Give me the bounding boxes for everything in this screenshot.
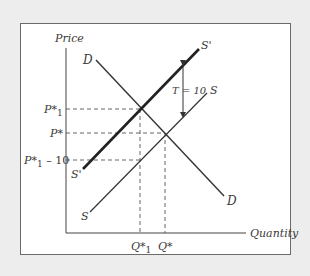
demand-label-top: D <box>82 53 93 67</box>
supply-tax-label-bottom: S' <box>71 168 82 181</box>
quantity-q1-label: Q*1 <box>131 240 151 255</box>
y-axis-label: Price <box>54 32 84 45</box>
quantity-qstar-label: Q* <box>158 240 173 253</box>
demand-label-bottom: D <box>226 194 237 208</box>
supply-curve <box>90 93 207 212</box>
supply-label-top: S <box>210 84 218 97</box>
x-axis-label: Quantity <box>250 227 299 240</box>
supply-label-bottom: S <box>81 210 89 223</box>
tax-annotation: T = 10 <box>172 85 207 96</box>
price-p1-label: P*1 <box>43 103 63 118</box>
supply-tax-label-top: S' <box>201 39 212 52</box>
demand-curve <box>96 60 224 196</box>
price-p1-minus-10-label: P*1 – 10 <box>23 154 69 169</box>
price-pstar-label: P* <box>49 127 63 140</box>
supply-demand-tax-diagram: Price Quantity D D S' S' S S T = 10 P*1 … <box>0 0 310 276</box>
